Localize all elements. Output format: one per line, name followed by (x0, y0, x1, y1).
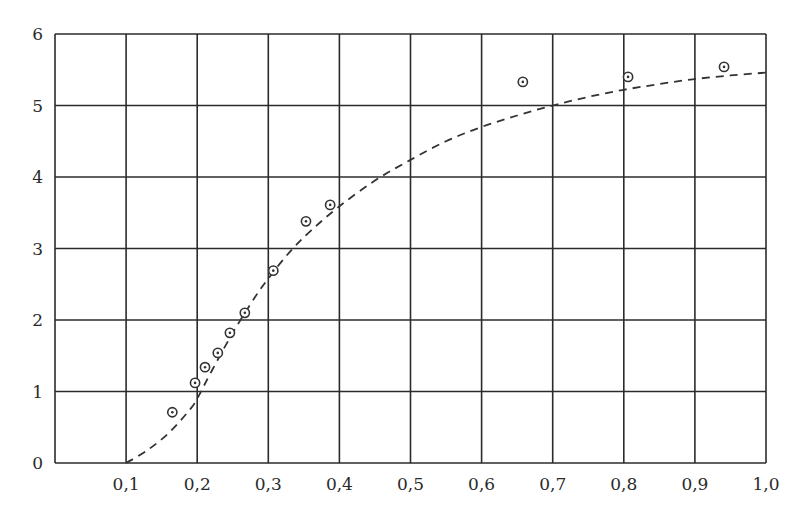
y-tick-label: 2 (32, 310, 43, 330)
x-tick-label: 0,1 (113, 474, 140, 494)
data-point-marker (225, 328, 234, 337)
data-point-marker (623, 72, 632, 81)
x-tick-label: 0,7 (539, 474, 566, 494)
data-point-marker (518, 77, 527, 86)
x-tick-label: 0,5 (397, 474, 424, 494)
y-tick-label: 4 (32, 167, 43, 187)
fitted-curve-dashed (126, 73, 766, 463)
x-tick-label: 1,0 (752, 474, 779, 494)
y-tick-label: 3 (32, 239, 43, 259)
x-axis-tick-labels: 0,10,20,30,40,50,60,70,80,91,0 (113, 474, 780, 494)
y-tick-label: 1 (32, 382, 43, 402)
data-point-marker (213, 348, 222, 357)
grid-lines (55, 34, 766, 463)
data-point-marker (240, 308, 249, 317)
data-point-marker (168, 408, 177, 417)
data-point-marker (269, 266, 278, 275)
x-tick-label: 0,3 (255, 474, 282, 494)
y-tick-label: 5 (32, 96, 43, 116)
y-tick-label: 6 (32, 24, 43, 44)
data-point-marker (200, 363, 209, 372)
y-tick-label: 0 (32, 453, 43, 473)
x-tick-label: 0,8 (610, 474, 637, 494)
data-points (168, 62, 729, 417)
data-point-marker (719, 62, 728, 71)
data-point-marker (190, 378, 199, 387)
y-axis-tick-labels: 0123456 (32, 24, 43, 473)
data-point-marker (301, 217, 310, 226)
x-tick-label: 0,6 (468, 474, 495, 494)
x-tick-label: 0,9 (681, 474, 708, 494)
x-tick-label: 0,2 (184, 474, 211, 494)
data-point-marker (326, 200, 335, 209)
chart: 0,10,20,30,40,50,60,70,80,91,0 0123456 (0, 0, 809, 516)
x-tick-label: 0,4 (326, 474, 353, 494)
